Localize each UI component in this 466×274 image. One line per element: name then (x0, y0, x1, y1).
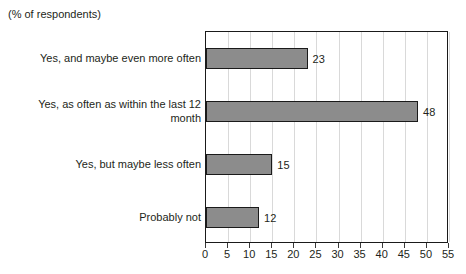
bar-chart: (% of respondents) 23481512 Yes, and may… (0, 0, 466, 274)
x-tick-label: 0 (202, 248, 208, 261)
category-label: Yes, and maybe even more often (40, 51, 201, 65)
x-tick-label: 5 (224, 248, 230, 261)
bar-row: 15 (206, 154, 447, 175)
x-tick-label: 20 (287, 248, 299, 261)
chart-subtitle: (% of respondents) (8, 8, 101, 21)
x-tick-label: 30 (331, 248, 343, 261)
x-axis-tick-labels: 0510152025303540455055 (205, 248, 448, 264)
x-tick-label: 15 (265, 248, 277, 261)
category-label: Probably not (139, 210, 201, 224)
x-tick-label: 35 (354, 248, 366, 261)
bar-row: 48 (206, 101, 447, 122)
bar-value-label: 48 (423, 106, 435, 118)
bar (206, 154, 272, 175)
bar (206, 48, 308, 69)
plot-area: 23481512 (205, 31, 448, 243)
gridline (449, 32, 450, 242)
bar-value-label: 15 (277, 159, 289, 171)
x-tick-label: 55 (442, 248, 454, 261)
x-tick-label: 45 (398, 248, 410, 261)
x-tick-label: 25 (309, 248, 321, 261)
category-label: Yes, as often as within the last 12 mont… (6, 97, 201, 125)
category-label: Yes, but maybe less often (75, 157, 201, 171)
bar-row: 12 (206, 207, 447, 228)
bar (206, 207, 259, 228)
bar-row: 23 (206, 48, 447, 69)
x-tick-label: 10 (243, 248, 255, 261)
category-axis-labels: Yes, and maybe even more oftenYes, as of… (6, 31, 201, 243)
bar (206, 101, 418, 122)
x-tick-label: 40 (376, 248, 388, 261)
bar-value-label: 12 (264, 212, 276, 224)
x-tick-label: 50 (420, 248, 432, 261)
bar-value-label: 23 (313, 53, 325, 65)
